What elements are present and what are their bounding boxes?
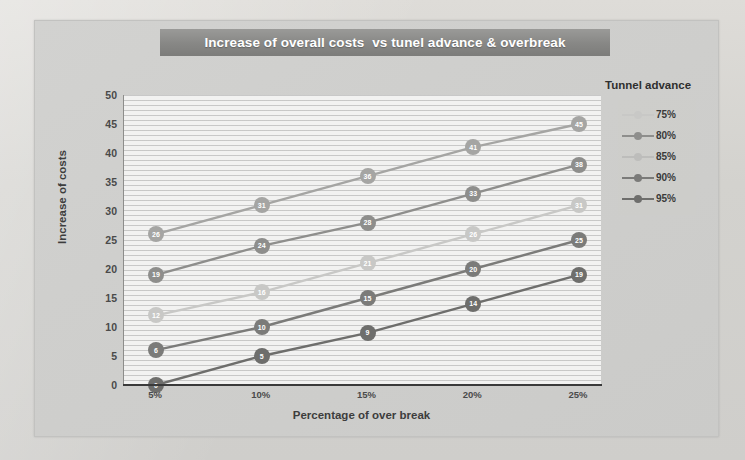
data-point-label: 12: [148, 307, 164, 323]
y-tick-label: 15: [93, 292, 117, 304]
data-point-label: 31: [571, 197, 587, 213]
photo-background: Increase of overall costs vs tunel advan…: [0, 0, 745, 460]
legend-item-label: 75%: [656, 109, 676, 120]
legend-item-label: 95%: [656, 193, 676, 204]
legend-item-90[interactable]: 90%: [622, 167, 692, 188]
legend-marker-icon: [622, 194, 654, 204]
y-tick-label: 35: [93, 176, 117, 188]
y-tick-label: 45: [93, 118, 117, 130]
y-axis-ticks: 05101520253035404550: [91, 95, 117, 385]
data-point-label: 5: [254, 348, 270, 364]
x-tick-label: 5%: [148, 389, 162, 400]
x-tick-label: 25%: [568, 389, 587, 400]
data-point-label: 45: [571, 116, 587, 132]
data-point-label: 15: [360, 290, 376, 306]
x-axis-line: [123, 384, 602, 386]
data-point-label: 10: [254, 319, 270, 335]
y-tick-label: 40: [93, 147, 117, 159]
data-point-label: 36: [360, 168, 376, 184]
x-axis-title: Percentage of over break: [123, 409, 600, 421]
data-point-label: 6: [148, 342, 164, 358]
legend-item-75[interactable]: 75%: [622, 104, 692, 125]
legend: Tunnel advance 75%80%85%90%95%: [618, 79, 710, 215]
y-tick-label: 20: [93, 263, 117, 275]
legend-marker-icon: [622, 173, 654, 183]
data-point-label: 28: [360, 215, 376, 231]
data-point-label: 19: [571, 267, 587, 283]
y-tick-label: 0: [93, 379, 117, 391]
data-point-label: 25: [571, 232, 587, 248]
data-point-label: 41: [465, 139, 481, 155]
y-axis-title: Increase of costs: [56, 122, 68, 272]
x-tick-label: 15%: [357, 389, 376, 400]
y-tick-label: 10: [93, 321, 117, 333]
legend-items: 75%80%85%90%95%: [618, 100, 696, 215]
data-point-label: 33: [465, 186, 481, 202]
data-point-label: 19: [148, 267, 164, 283]
data-point-label: 26: [465, 226, 481, 242]
data-point-label: 26: [148, 226, 164, 242]
data-point-label: 24: [254, 238, 270, 254]
x-tick-label: 10%: [251, 389, 270, 400]
data-point-label: 31: [254, 197, 270, 213]
data-point-label: 38: [571, 157, 587, 173]
legend-item-label: 80%: [656, 130, 676, 141]
legend-item-85[interactable]: 85%: [622, 146, 692, 167]
y-tick-label: 50: [93, 89, 117, 101]
legend-item-label: 85%: [656, 151, 676, 162]
data-point-label: 21: [360, 255, 376, 271]
x-tick-label: 20%: [463, 389, 482, 400]
plot-area: 1216212631192428333826313641456101520250…: [123, 95, 601, 385]
legend-item-95[interactable]: 95%: [622, 188, 692, 209]
data-point-label: 14: [465, 296, 481, 312]
y-tick-label: 25: [93, 234, 117, 246]
x-axis-ticks: 5%10%15%20%25%: [123, 389, 600, 405]
data-point-label: 9: [360, 325, 376, 341]
legend-marker-icon: [622, 152, 654, 162]
data-point-label: 20: [465, 261, 481, 277]
series-lines: [124, 95, 601, 385]
legend-marker-icon: [622, 110, 654, 120]
y-tick-label: 30: [93, 205, 117, 217]
chart-title: Increase of overall costs vs tunel advan…: [160, 29, 610, 56]
chart-card: Increase of overall costs vs tunel advan…: [34, 20, 719, 437]
data-point-label: 16: [254, 284, 270, 300]
legend-item-label: 90%: [656, 172, 676, 183]
y-tick-label: 5: [93, 350, 117, 362]
legend-item-80[interactable]: 80%: [622, 125, 692, 146]
legend-marker-icon: [622, 131, 654, 141]
legend-title: Tunnel advance: [605, 79, 710, 91]
